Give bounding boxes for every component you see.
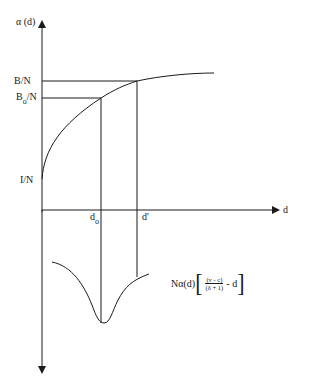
y-axis-label: α (d) <box>16 16 35 27</box>
formula-fraction: (v - c) (δ + 1) <box>205 276 223 291</box>
formula-numerator: (v - c) <box>205 276 223 284</box>
formula-open-bracket: [ <box>195 272 202 294</box>
formula-close-bracket: ] <box>237 272 244 294</box>
formula-suffix: - d <box>226 278 237 289</box>
tick-bo-sub: o <box>23 97 27 106</box>
tick-do: do <box>90 211 99 222</box>
tick-bo-over-n: Bo/N <box>16 91 37 102</box>
formula-label: Nα(d) [ (v - c) (δ + 1) - d ] <box>171 273 245 293</box>
tick-d-prime: d' <box>142 211 149 222</box>
tick-do-sub: o <box>95 217 99 226</box>
formula-denominator: (δ + 1) <box>206 284 224 291</box>
formula-prefix: Nα(d) <box>171 278 195 289</box>
alpha-curve <box>42 73 214 179</box>
diagram-canvas <box>0 0 310 387</box>
tick-bo-rest: /N <box>27 91 37 102</box>
tick-bo-main: B <box>16 91 23 102</box>
x-axis-label: d <box>283 204 288 215</box>
tick-b-over-n: B/N <box>14 75 31 86</box>
tick-i-over-n: I/N <box>20 174 33 185</box>
